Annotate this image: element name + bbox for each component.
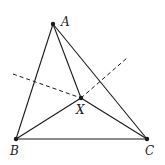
segment-ca bbox=[53, 24, 147, 139]
geometry-diagram: A B C X bbox=[0, 0, 165, 165]
label-x: X bbox=[75, 103, 85, 117]
point-a bbox=[51, 22, 55, 26]
dashed-lines bbox=[13, 58, 127, 98]
point-x bbox=[79, 96, 83, 100]
label-a: A bbox=[60, 15, 70, 29]
segment-ax bbox=[53, 24, 81, 98]
dashed-line-1 bbox=[13, 74, 81, 98]
labels: A B C X bbox=[9, 15, 154, 158]
label-c: C bbox=[145, 144, 154, 158]
dashed-line-2 bbox=[81, 58, 127, 98]
segment-cx bbox=[81, 98, 147, 139]
segment-bx bbox=[16, 98, 81, 139]
point-c bbox=[145, 137, 149, 141]
point-b bbox=[14, 137, 18, 141]
label-b: B bbox=[9, 144, 19, 158]
